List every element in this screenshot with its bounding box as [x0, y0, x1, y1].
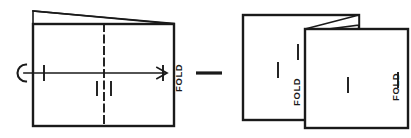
fold-diagram-canvas: FOLD FOLD FOLD	[0, 0, 411, 138]
right-outer-fold-label: FOLD	[390, 73, 401, 101]
right-inner-fold-label: FOLD	[291, 78, 302, 106]
left-fold-label: FOLD	[173, 64, 184, 92]
right-folded-sheet-group	[243, 15, 408, 128]
left-flat-sheet-group	[17, 11, 174, 126]
fold-diagram-figure: FOLD FOLD FOLD	[0, 0, 411, 138]
